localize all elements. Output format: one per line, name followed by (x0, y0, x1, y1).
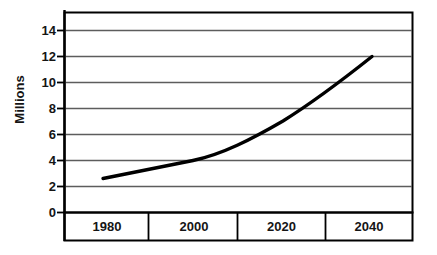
horizontal-gridlines (65, 31, 412, 187)
chart-canvas (0, 0, 437, 255)
category-row-box (65, 213, 413, 241)
x-category-row (65, 213, 413, 241)
chart-figure: Millions 14 12 10 8 6 4 2 0 1980 2000 20… (0, 0, 437, 255)
plot-frame (65, 13, 413, 213)
